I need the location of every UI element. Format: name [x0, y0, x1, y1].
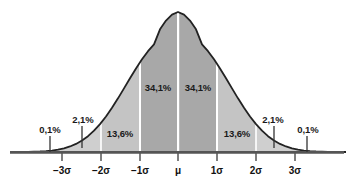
pct-label-right-1to2: 13,6%	[224, 129, 250, 139]
normal-distribution-chart: 0,1% 2,1% 13,6% 34,1% 34,1% 13,6% 2,1% 0…	[0, 0, 354, 191]
separator-plus-1-sigma	[216, 0, 218, 191]
separator-plus-2-sigma	[255, 0, 257, 191]
pct-label-left-2to3: 2,1%	[72, 115, 93, 125]
band-left-outer-tail	[0, 0, 62, 191]
pct-label-right-0to1: 34,1%	[185, 83, 211, 93]
separator-minus-1-sigma	[139, 0, 141, 191]
pct-label-left-outer-tail: 0,1%	[39, 125, 60, 135]
separator-minus-2-sigma	[100, 0, 102, 191]
separator-mu	[177, 0, 179, 191]
pct-label-left-0to1: 34,1%	[145, 83, 171, 93]
chart-canvas	[0, 0, 354, 191]
axis-label-minus-1-sigma: −1σ	[131, 166, 149, 176]
axis-label-plus-2-sigma: 2σ	[250, 166, 262, 176]
band-left-3to2	[62, 0, 101, 191]
axis-label-mu: μ	[175, 166, 181, 176]
axis-label-minus-3-sigma: −3σ	[53, 166, 71, 176]
band-right-0to1	[178, 0, 217, 191]
axis-label-plus-1-sigma-text: 1σ	[211, 165, 223, 176]
axis-label-plus-3-sigma-text: 3σ	[289, 165, 301, 176]
band-right-2to3	[256, 0, 295, 191]
axis-label-plus-1-sigma: 1σ	[211, 166, 223, 176]
axis-label-mu-text: μ	[175, 165, 181, 176]
axis-label-plus-2-sigma-text: 2σ	[250, 165, 262, 176]
band-right-outer-tail	[295, 0, 354, 191]
band-left-1to0	[140, 0, 178, 191]
distribution-bands	[0, 0, 354, 191]
axis-label-plus-3-sigma: 3σ	[289, 166, 301, 176]
pct-label-left-1to2: 13,6%	[107, 129, 133, 139]
pct-label-right-outer-tail: 0,1%	[297, 125, 318, 135]
axis-label-minus-2-sigma-text: −2σ	[92, 165, 110, 176]
axis-label-minus-2-sigma: −2σ	[92, 166, 110, 176]
pct-label-right-2to3: 2,1%	[262, 115, 283, 125]
axis-label-minus-1-sigma-text: −1σ	[131, 165, 149, 176]
axis-label-minus-3-sigma-text: −3σ	[53, 165, 71, 176]
